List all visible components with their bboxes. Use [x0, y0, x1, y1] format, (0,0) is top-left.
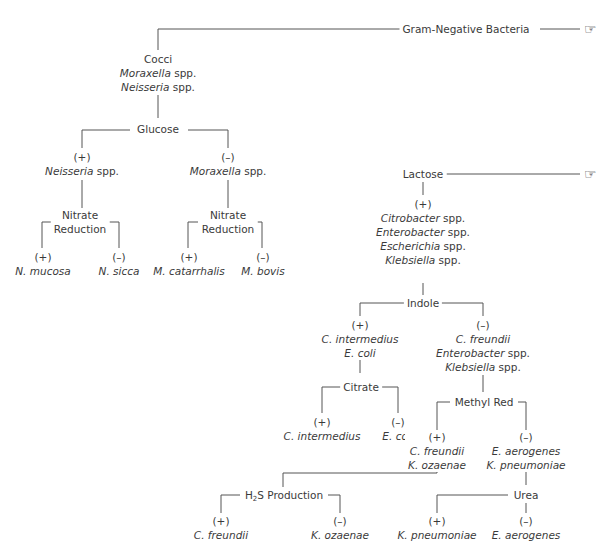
node-lactose-positive: (+) Citrobacter spp. Enterobacter spp. E… [373, 197, 473, 267]
node-methyl-red-positive: (+) C. freundii K. ozaenae [405, 430, 469, 472]
negative-sign: (–) [492, 514, 561, 528]
species-name: E. aerogenes [486, 444, 565, 458]
genus-escherichia: Escherichia [380, 240, 440, 252]
positive-sign: (+) [284, 415, 361, 429]
spp-label: spp. [504, 347, 529, 359]
connector-lines [0, 0, 615, 558]
node-gram-negative-bacteria: Gram-Negative Bacteria [399, 22, 532, 36]
negative-sign: (–) [382, 415, 413, 429]
node-glucose: Glucose [134, 122, 182, 136]
node-glucose-negative: (–) Moraxella spp. [187, 150, 270, 178]
negative-sign: (–) [190, 150, 267, 164]
species-name: C. intermedius [284, 429, 361, 443]
genus-enterobacter: Enterobacter [376, 226, 444, 238]
positive-sign: (+) [45, 150, 119, 164]
genus-moraxella: Moraxella [120, 67, 171, 79]
node-h2s-production: H2S Production [242, 488, 326, 506]
spp-label: spp. [93, 165, 118, 177]
spp-label: spp. [440, 240, 465, 252]
species-name: K. ozaenae [408, 458, 466, 472]
positive-sign: (+) [322, 318, 399, 332]
species-name: N. sicca [99, 264, 140, 278]
genus-citrobacter: Citrobacter [381, 212, 440, 224]
node-nitrate-reduction-neisseria: Nitrate Reduction [51, 208, 110, 236]
node-methyl-red-negative: (–) E. aerogenes K. pneumoniae [483, 430, 568, 472]
positive-sign: (+) [397, 514, 476, 528]
negative-sign: (–) [311, 514, 369, 528]
h2s-label-pre: H [245, 489, 253, 501]
node-cocci: Cocci Moraxella spp. Neisseria spp. [117, 52, 200, 94]
species-name: C. intermedius [322, 332, 399, 346]
spp-label: spp. [435, 254, 460, 266]
urea-label: Urea [514, 489, 539, 501]
spp-label: spp. [171, 67, 196, 79]
positive-sign: (+) [194, 514, 248, 528]
node-m-catarrhalis: (+) M. catarrhalis [150, 250, 228, 278]
positive-sign: (+) [408, 430, 466, 444]
node-citrate-positive: (+) C. intermedius [281, 415, 364, 443]
node-nitrate-reduction-moraxella: Nitrate Reduction [199, 208, 258, 236]
methyl-red-label: Methyl Red [455, 396, 514, 408]
genus-klebsiella: Klebsiella [385, 254, 435, 266]
species-name: E. aerogenes [492, 528, 561, 542]
spp-label: spp. [241, 165, 266, 177]
genus-neisseria: Neisseria [121, 81, 169, 93]
node-lactose: Lactose [400, 167, 447, 181]
reduction-label: Reduction [202, 222, 255, 236]
positive-sign: (+) [376, 197, 470, 211]
node-n-mucosa: (+) N. mucosa [12, 250, 74, 278]
species-name: E. coli [322, 346, 399, 360]
genus-moraxella: Moraxella [190, 165, 241, 177]
root-label: Gram-Negative Bacteria [402, 23, 529, 35]
nitrate-label: Nitrate [202, 208, 255, 222]
node-urea-positive: (+) K. pneumoniae [394, 514, 479, 542]
species-name: K. pneumoniae [397, 528, 476, 542]
genus-klebsiella: Klebsiella [445, 361, 495, 373]
citrate-label: Citrate [343, 381, 379, 393]
node-m-bovis: (–) M. bovis [238, 250, 287, 278]
species-name: C. freundii [436, 332, 530, 346]
negative-sign: (–) [486, 430, 565, 444]
negative-sign: (–) [99, 250, 140, 264]
species-name: C. freundii [194, 528, 248, 542]
node-urea-negative: (–) E. aerogenes [489, 514, 564, 542]
lactose-label: Lactose [403, 168, 444, 180]
positive-sign: (+) [153, 250, 225, 264]
node-n-sicca: (–) N. sicca [96, 250, 143, 278]
spp-label: spp. [440, 212, 465, 224]
h2s-label-post: S Production [257, 489, 323, 501]
node-indole: Indole [404, 296, 442, 310]
genus-neisseria: Neisseria [45, 165, 93, 177]
node-urea: Urea [511, 488, 542, 502]
node-indole-negative: (–) C. freundii Enterobacter spp. Klebsi… [433, 318, 533, 374]
cocci-label: Cocci [120, 52, 197, 66]
species-name: N. mucosa [15, 264, 71, 278]
spp-label: spp. [169, 81, 194, 93]
node-indole-positive: (+) C. intermedius E. coli [319, 318, 402, 360]
species-name: K. pneumoniae [486, 458, 565, 472]
nitrate-label: Nitrate [54, 208, 107, 222]
pointing-hand-icon: ☞ [584, 167, 597, 181]
negative-sign: (–) [241, 250, 284, 264]
node-h2s-positive: (+) C. freundii [191, 514, 251, 542]
spp-label: spp. [444, 226, 469, 238]
negative-sign: (–) [436, 318, 530, 332]
species-name: M. bovis [241, 264, 284, 278]
species-name: K. ozaenae [311, 528, 369, 542]
node-h2s-negative: (–) K. ozaenae [308, 514, 372, 542]
glucose-label: Glucose [137, 123, 179, 135]
reduction-label: Reduction [54, 222, 107, 236]
species-name: M. catarrhalis [153, 264, 225, 278]
node-citrate: Citrate [340, 380, 382, 394]
indole-label: Indole [407, 297, 439, 309]
species-name: C. freundii [408, 444, 466, 458]
node-methyl-red: Methyl Red [452, 395, 517, 409]
genus-enterobacter: Enterobacter [436, 347, 504, 359]
node-glucose-positive: (+) Neisseria spp. [42, 150, 122, 178]
pointing-hand-icon: ☞ [584, 22, 597, 36]
positive-sign: (+) [15, 250, 71, 264]
spp-label: spp. [495, 361, 520, 373]
